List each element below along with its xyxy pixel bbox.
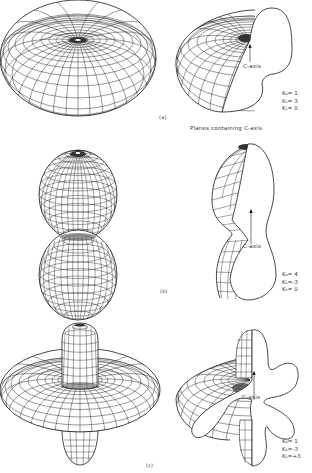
panel-b-label: (b) bbox=[160, 288, 168, 294]
panel-b-full-surface bbox=[39, 150, 117, 320]
panel-a-k0: K₀= 1 bbox=[282, 90, 298, 98]
panel-c-label: (c) bbox=[146, 462, 153, 468]
panel-a-parameters: K₀= 1 K₁= 3 K₂= 0 bbox=[282, 90, 298, 113]
panel-b-parameters: K₀= 4 K₁=-3 K₂= 0 bbox=[282, 271, 298, 294]
panel-a-k2: K₂= 0 bbox=[282, 105, 298, 113]
panel-a-c-axis-label: C-axis bbox=[243, 63, 261, 69]
panel-a-k1: K₁= 3 bbox=[282, 98, 298, 106]
panel-a-label: (a) bbox=[159, 114, 167, 120]
panel-c-parameters: K₀= 1 K₁=-3 K₂=+3 bbox=[282, 438, 301, 461]
panel-a-full-surface bbox=[0, 0, 156, 116]
panel-c-k2: K₂=+3 bbox=[282, 453, 301, 461]
panel-b-c-axis-label: C-axis bbox=[243, 243, 261, 249]
panel-b-k2: K₂= 0 bbox=[282, 286, 298, 294]
panel-b-k0: K₀= 4 bbox=[282, 271, 298, 279]
panel-b-k1: K₁=-3 bbox=[282, 279, 298, 287]
panel-c-k1: K₁=-3 bbox=[282, 446, 301, 454]
panel-c-full-surface bbox=[0, 323, 160, 466]
planes-caption: Planes containing C-axis bbox=[190, 125, 262, 131]
figure-canvas bbox=[0, 0, 312, 473]
panel-c-k0: K₀= 1 bbox=[282, 438, 301, 446]
panel-b-cut-surface bbox=[212, 144, 276, 300]
panel-c-c-axis-label: C-axis bbox=[242, 394, 260, 400]
